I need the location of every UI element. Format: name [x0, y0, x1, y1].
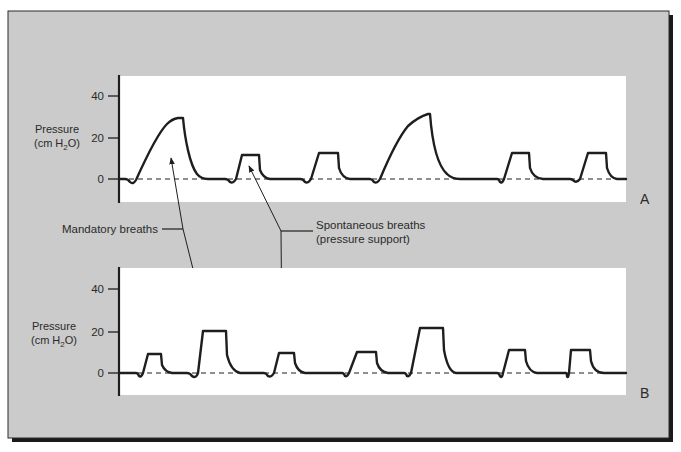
- ventilator-pressure-figure: 40 20 0 Pressure (cm H2O) A Mandatory br…: [0, 0, 681, 452]
- panel-b: 40 20 0 Pressure (cm H2O): [31, 267, 626, 396]
- panel-a-letter: A: [640, 191, 650, 207]
- panel-b-tick-label-40: 40: [91, 283, 104, 295]
- panel-a-plot-area: [120, 76, 626, 202]
- panel-a-y-label-line1: Pressure: [35, 123, 79, 135]
- spontaneous-breaths-label-line2: (pressure support): [316, 233, 410, 245]
- panel-b-y-label-line1: Pressure: [32, 320, 76, 332]
- panel-a: 40 20 0 Pressure (cm H2O): [34, 75, 626, 203]
- panel-b-tick-label-20: 20: [91, 326, 104, 338]
- panel-a-tick-label-40: 40: [91, 90, 104, 102]
- panel-a-tick-label-0: 0: [98, 173, 104, 185]
- mandatory-breaths-label: Mandatory breaths: [62, 223, 158, 235]
- spontaneous-breaths-label-line1: Spontaneous breaths: [316, 219, 426, 231]
- panel-b-tick-label-0: 0: [98, 367, 104, 379]
- panel-b-letter: B: [640, 385, 649, 401]
- panel-a-tick-label-20: 20: [91, 132, 104, 144]
